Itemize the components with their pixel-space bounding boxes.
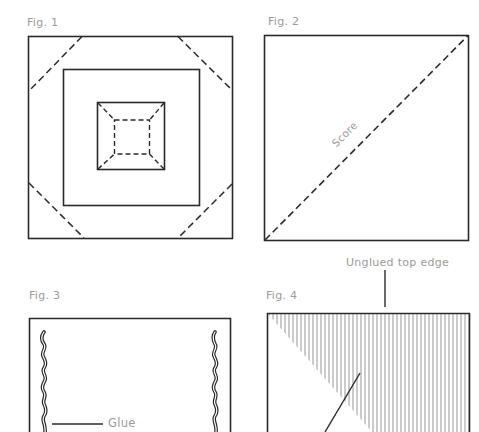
glue-annotation: Glue (108, 416, 136, 430)
fig1-diagram (29, 37, 233, 239)
fig2-diagram (265, 36, 469, 241)
fig1-outer-square (29, 37, 233, 239)
fig4-hatched-region (268, 314, 470, 432)
fig3-glue-line-left (42, 332, 46, 432)
unglued-top-edge-annotation: Unglued top edge (346, 256, 449, 269)
fig2-score-line (265, 36, 468, 241)
fig1-dashed-square (115, 120, 150, 154)
fig1-middle-square (64, 70, 200, 206)
fig4-diagram (268, 270, 471, 432)
fig3-box (30, 319, 231, 432)
fig1-corner-score-lines (29, 37, 232, 239)
diagram-canvas (0, 0, 479, 432)
fig1-center-square (98, 103, 165, 170)
fig1-inner-fold-lines (98, 103, 164, 169)
fig3-glue-line-right (213, 332, 217, 432)
fig3-diagram (30, 319, 231, 432)
